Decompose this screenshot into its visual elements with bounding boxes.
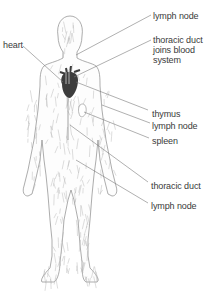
lymph-vessel xyxy=(62,256,64,261)
label-thoracic-duct-joins: thoracic duct joins blood system xyxy=(153,35,203,65)
lymph-vessel xyxy=(27,104,29,111)
label-line: joins blood xyxy=(153,45,203,55)
leader-thoracic-duct-joins xyxy=(74,40,151,77)
lymph-vessel xyxy=(62,243,64,253)
lymph-vessel xyxy=(67,265,68,273)
lymph-vessel xyxy=(114,170,117,176)
label-line: system xyxy=(153,55,203,65)
lymph-vessel xyxy=(35,115,37,121)
label-lymph-node-groin: lymph node xyxy=(151,201,197,211)
lymph-vessel xyxy=(26,115,28,122)
lymph-vessel xyxy=(64,256,65,265)
lymph-vessel xyxy=(108,130,110,135)
leader-lymph-node-neck xyxy=(76,15,151,55)
lymph-vessel xyxy=(67,242,68,251)
label-lymph-node-neck: lymph node xyxy=(153,11,199,21)
label-thoracic-duct: thoracic duct xyxy=(151,181,201,191)
lymph-vessel xyxy=(36,104,37,114)
lymph-vessel xyxy=(68,258,70,263)
lymph-vessel xyxy=(56,278,58,288)
lymph-vessel xyxy=(68,268,69,273)
spleen-organ xyxy=(79,104,87,117)
lymph-vessel xyxy=(30,90,32,102)
label-lymph-node-armpit: lymph node xyxy=(152,121,198,131)
label-heart: heart xyxy=(3,40,23,50)
lymph-vessel xyxy=(113,120,115,129)
lymph-vessel xyxy=(67,268,69,274)
lymph-vessel xyxy=(107,122,110,130)
lymph-vessel xyxy=(100,190,103,194)
label-line: thoracic duct xyxy=(153,35,203,45)
label-spleen: spleen xyxy=(152,136,178,146)
lymph-vessel xyxy=(111,131,112,141)
label-thymus: thymus xyxy=(152,109,180,119)
lymph-vessel xyxy=(72,198,73,205)
lymph-vessel xyxy=(95,267,96,273)
lymph-vessel xyxy=(76,220,77,228)
lymph-vessel xyxy=(77,262,78,274)
lymph-vessel xyxy=(98,188,99,194)
